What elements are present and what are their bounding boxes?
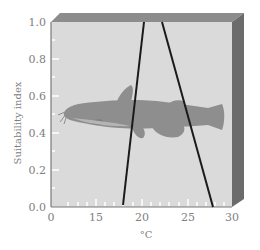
y-axis-title: Suitability index [12,81,23,164]
y-tick-0.0: 0.0 [29,201,47,214]
x-tick-30: 30 [225,211,239,224]
y-tick-1.0: 1.0 [29,16,47,29]
y-tick-0.2: 0.2 [29,164,47,177]
suitability-chart: 0.0 0.2 0.4 0.6 0.8 1.0 0 15 20 25 30 °C… [0,0,260,250]
y-tick-labels: 0.0 0.2 0.4 0.6 0.8 1.0 [29,16,47,214]
panel-side-face [232,13,244,207]
y-tick-0.6: 0.6 [29,90,47,103]
y-tick-0.8: 0.8 [29,53,47,66]
x-tick-15: 15 [89,211,103,224]
x-tick-0: 0 [48,211,55,224]
panel-top-face [51,13,244,22]
x-axis-title: °C [140,229,153,240]
x-tick-25: 25 [181,211,195,224]
y-tick-0.4: 0.4 [29,127,47,140]
x-tick-20: 20 [135,211,149,224]
x-tick-labels: 0 15 20 25 30 [48,211,240,224]
